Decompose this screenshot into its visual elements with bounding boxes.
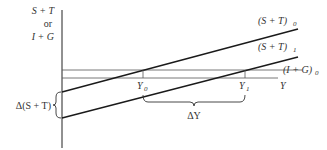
st0-label: (S + T) 0	[258, 15, 297, 28]
svg-text:0: 0	[144, 85, 148, 93]
delta-st-label: Δ(S + T)	[16, 100, 51, 112]
svg-text:(S + T): (S + T)	[258, 41, 288, 53]
svg-text:0: 0	[315, 69, 319, 77]
delta-y-brace	[143, 95, 245, 106]
svg-text:Y: Y	[239, 80, 246, 91]
st1-label: (S + T) 1	[258, 41, 297, 54]
ig0-label: (I + G) 0	[283, 64, 319, 77]
y-axis-label-line3: I + G	[31, 31, 54, 42]
y-axis-label-line2: or	[44, 18, 53, 29]
delta-st-brace	[53, 92, 61, 118]
delta-y-label: ΔY	[187, 110, 201, 121]
keynesian-diagram: S + T or I + G Y (S + T) 0 (S + T) 1 (I …	[0, 0, 327, 150]
y-axis-label-line1: S + T	[32, 5, 56, 16]
svg-text:(S + T): (S + T)	[258, 15, 288, 27]
svg-text:0: 0	[293, 20, 297, 28]
y0-label: Y 0	[137, 80, 148, 93]
svg-text:(I + G): (I + G)	[283, 64, 313, 76]
svg-text:1: 1	[293, 46, 297, 54]
y1-label: Y 1	[239, 80, 250, 93]
st0-line	[62, 29, 298, 92]
st1-line	[62, 57, 298, 118]
svg-text:1: 1	[246, 85, 250, 93]
x-axis-label: Y	[280, 80, 287, 91]
svg-text:Y: Y	[137, 80, 144, 91]
